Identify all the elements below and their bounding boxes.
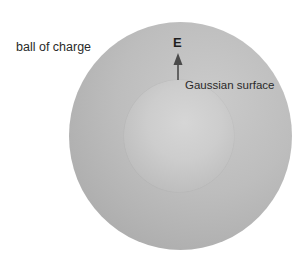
ball-of-charge-label: ball of charge [16, 40, 91, 54]
gaussian-surface-label: Gaussian surface [185, 79, 275, 91]
field-vector-label: E [173, 35, 182, 50]
gaussian-surface-sphere [124, 80, 234, 192]
electric-field-arrow-icon [170, 52, 186, 82]
gauss-law-diagram: E ball of charge Gaussian surface [0, 0, 308, 265]
